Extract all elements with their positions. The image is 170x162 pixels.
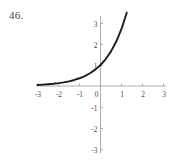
figure-container: 46. -3 -2 -1 0 1 2 3 — [0, 0, 170, 162]
x-tick-label-2: 2 — [141, 90, 145, 99]
y-tick-label-3: 3 — [94, 20, 98, 29]
exponential-curve-path — [38, 13, 127, 85]
x-tick-label-neg2: -2 — [56, 90, 62, 99]
x-tick-label-3: 3 — [162, 90, 166, 99]
y-tick-label-neg3: -3 — [91, 146, 97, 155]
y-tick-label-neg1: -1 — [91, 104, 97, 113]
y-tick-label-neg2: -2 — [91, 125, 97, 134]
coordinate-plot: -3 -2 -1 0 1 2 3 3 2 1 -1 -2 -3 — [0, 0, 170, 162]
y-tick-label-2: 2 — [94, 41, 98, 50]
x-tick-label-neg1: -1 — [77, 90, 83, 99]
x-tick-label-zero: 0 — [95, 90, 99, 99]
x-tick-label-1: 1 — [120, 90, 124, 99]
x-tick-label-neg3: -3 — [35, 90, 41, 99]
